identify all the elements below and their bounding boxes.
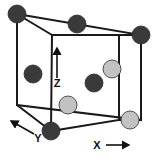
corner-atom-back-top-right	[132, 26, 150, 44]
face-atom-left	[24, 65, 42, 83]
axis-x-label: X	[93, 139, 101, 151]
axis-y-arrow-icon	[11, 121, 34, 134]
atom-group	[8, 5, 150, 140]
interior-atom-center	[85, 74, 103, 92]
corner-atom-front-bottom-right	[121, 111, 139, 129]
edge-atom-front-bottom	[59, 96, 77, 114]
edge-atom-back-top-center	[68, 15, 86, 33]
corner-atom-front-bottom-left	[42, 122, 60, 140]
axis-z-label: Z	[54, 77, 61, 89]
axis-y-label: Y	[34, 132, 42, 144]
face-atom-right-upper	[103, 60, 121, 78]
corner-atom-back-top-left	[8, 5, 26, 23]
unit-cell-svg: ZYX	[0, 0, 159, 160]
unit-cell-figure: ZYX	[0, 0, 159, 160]
